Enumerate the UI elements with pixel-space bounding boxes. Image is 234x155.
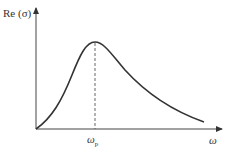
y-axis-label: Re (σ) (3, 7, 31, 19)
peak-label-main: ω (87, 133, 95, 145)
response-curve (36, 42, 204, 129)
x-axis-label: ω (209, 134, 217, 146)
diagram-canvas (0, 0, 234, 155)
peak-label: ωp (87, 133, 98, 148)
peak-label-sub: p (95, 140, 99, 148)
